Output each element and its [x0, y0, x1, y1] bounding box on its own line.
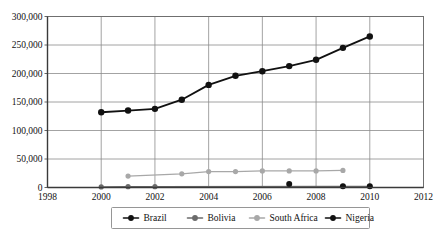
x-axis-tick-label: 2010 [360, 192, 379, 202]
y-axis-tick-label: 150,000 [12, 97, 43, 107]
data-point [340, 45, 346, 51]
y-axis-tick-label: 200,000 [12, 69, 43, 79]
data-point [179, 97, 185, 103]
data-point [125, 174, 130, 179]
y-axis-tick-label: 100,000 [12, 126, 43, 136]
data-point [259, 68, 265, 74]
x-axis-tick-label: 1998 [38, 192, 57, 202]
y-axis-tick-label: 300,000 [12, 12, 43, 22]
y-axis-tick-label: 250,000 [12, 40, 43, 50]
data-point [152, 184, 157, 189]
data-point [125, 184, 130, 189]
legend-label: Nigeria [346, 213, 375, 223]
legend-marker-icon [192, 215, 198, 221]
x-axis-tick-label: 2000 [92, 192, 111, 202]
chart-background [0, 0, 442, 242]
data-point [367, 183, 373, 189]
chart-canvas: 050,000100,000150,000200,000250,000300,0… [0, 0, 442, 242]
data-point [152, 106, 158, 112]
data-point [98, 109, 104, 115]
data-point [260, 168, 265, 173]
x-axis-tick-label: 2008 [307, 192, 326, 202]
legend-label: Brazil [144, 213, 168, 223]
data-point [313, 57, 319, 63]
legend-label: Bolivia [208, 213, 237, 223]
legend-marker-icon [330, 215, 336, 221]
x-axis-tick-label: 2012 [414, 192, 433, 202]
data-point [206, 169, 211, 174]
legend-label: South Africa [270, 213, 319, 223]
data-point [232, 73, 238, 79]
data-point [340, 183, 346, 189]
data-point [340, 168, 345, 173]
data-point [287, 168, 292, 173]
line-chart: 050,000100,000150,000200,000250,000300,0… [0, 0, 442, 242]
data-point [205, 82, 211, 88]
x-axis-tick-label: 2006 [253, 192, 272, 202]
legend-marker-icon [254, 215, 260, 221]
data-point [233, 169, 238, 174]
data-point [286, 63, 292, 69]
x-axis-tick-label: 2002 [145, 192, 164, 202]
data-point [313, 168, 318, 173]
chart-legend: BrazilBoliviaSouth AfricaNigeria [112, 208, 375, 229]
data-point [286, 181, 292, 187]
data-point [179, 171, 184, 176]
y-axis-tick-label: 50,000 [16, 154, 42, 164]
data-point [367, 33, 373, 39]
legend-marker-icon [128, 215, 134, 221]
data-point [125, 107, 131, 113]
x-axis-tick-label: 2004 [199, 192, 218, 202]
